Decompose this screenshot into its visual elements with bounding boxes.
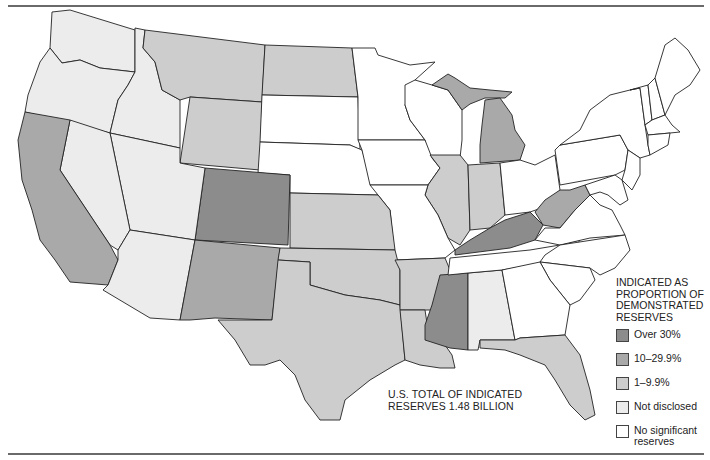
state-indiana — [468, 163, 505, 230]
us-total-annotation: U.S. TOTAL OF INDICATED RESERVES 1.48 BI… — [388, 388, 522, 412]
state-michigan-lower — [480, 98, 525, 163]
legend-item-10-29: 10–29.9% — [616, 353, 708, 377]
total-line-2: RESERVES 1.48 BILLION — [388, 400, 522, 412]
legend-title: INDICATED AS PROPORTION OF DEMONSTRATED … — [616, 277, 708, 323]
legend-item-over-30: Over 30% — [616, 329, 708, 353]
legend-item-no-reserves: No significant reserves — [616, 425, 708, 449]
legend-swatch — [616, 329, 629, 342]
legend-label: 10–29.9% — [634, 353, 681, 364]
legend-swatch — [616, 353, 629, 366]
legend-label: Over 30% — [634, 329, 681, 340]
legend-swatch — [616, 377, 629, 390]
legend-item-1-9: 1–9.9% — [616, 377, 708, 401]
legend-swatch — [616, 401, 629, 414]
state-colorado — [195, 168, 290, 245]
state-south-dakota — [260, 95, 360, 150]
legend-label: Not disclosed — [634, 401, 697, 412]
state-iowa — [358, 140, 440, 185]
us-map — [0, 0, 710, 460]
state-kansas — [290, 193, 395, 250]
legend-label: 1–9.9% — [634, 377, 670, 388]
legend-swatch — [616, 425, 629, 438]
legend-label: No significant reserves — [634, 425, 708, 447]
legend-item-not-disclosed: Not disclosed — [616, 401, 708, 425]
bottom-rule — [8, 453, 704, 455]
total-line-1: U.S. TOTAL OF INDICATED — [388, 388, 522, 400]
state-connecticut — [648, 133, 670, 155]
state-north-dakota — [262, 45, 358, 97]
state-new-mexico — [180, 240, 280, 320]
legend: INDICATED AS PROPORTION OF DEMONSTRATED … — [616, 277, 708, 449]
state-wyoming — [180, 97, 262, 170]
state-maine — [655, 38, 700, 115]
